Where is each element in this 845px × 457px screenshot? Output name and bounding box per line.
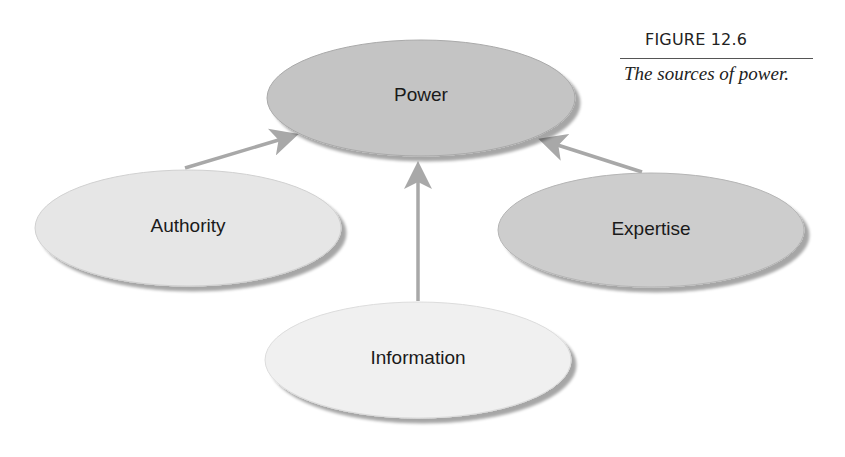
figure-rule-divider (620, 58, 813, 59)
node-power-label: Power (394, 84, 448, 106)
figure-number: FIGURE 12.6 (645, 30, 747, 49)
arrow-authority-to-power (185, 136, 292, 168)
figure-caption: The sources of power. (624, 63, 789, 85)
node-expertise-label: Expertise (611, 218, 690, 240)
node-authority-label: Authority (151, 215, 226, 237)
arrow-expertise-to-power (545, 141, 642, 172)
node-information-label: Information (370, 347, 465, 369)
